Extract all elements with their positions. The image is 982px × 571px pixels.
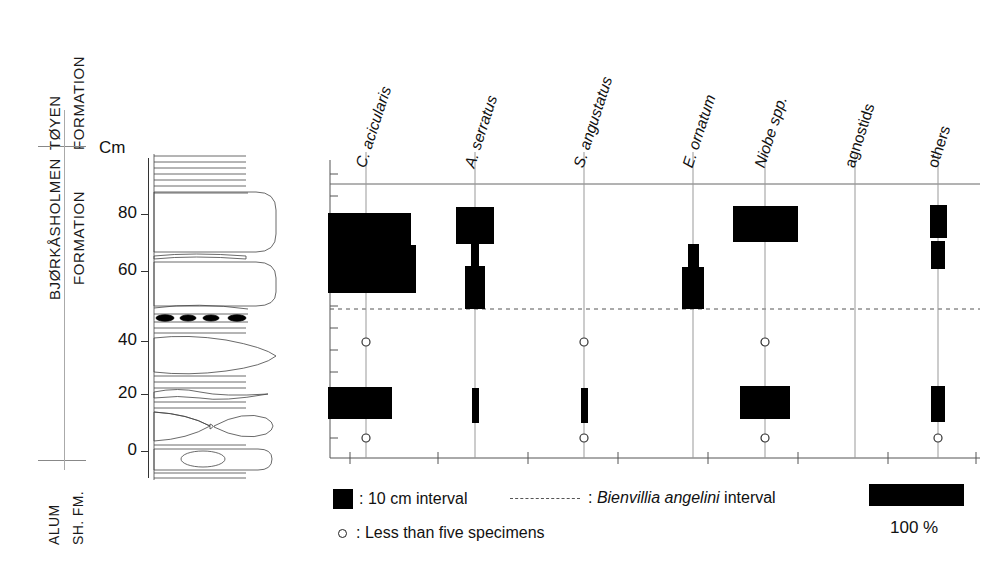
- rare-occurrence-marker: [761, 338, 769, 346]
- rare-occurrence-marker: [580, 338, 588, 346]
- rare-occurrence-marker: [761, 434, 769, 442]
- depth-tick-label-60: 60: [103, 260, 137, 280]
- facies-laminated-shale-2: [154, 328, 246, 333]
- scale-bar-label: 100 %: [890, 518, 938, 538]
- facies-limestone-nodule-4b: [214, 415, 273, 436]
- formation-toyen-line1: TØYEN: [46, 95, 63, 150]
- facies-limestone-lens: [154, 390, 268, 400]
- rare-occurrence-marker: [362, 434, 370, 442]
- depth-tick-label-80: 80: [103, 203, 137, 223]
- bars-e-ornatum: [682, 244, 704, 309]
- facies-laminated-shale-top: [154, 156, 246, 186]
- legend-bienvillia-taxon: Bienvillia angelini: [597, 489, 720, 506]
- bar-segment: [328, 387, 392, 419]
- legend-row-interval: : 10 cm interval: [333, 489, 467, 509]
- chart-bottom-axis: [330, 452, 980, 464]
- figure-root: TØYEN FORMATION BJØRKÅSHOLMEN FORMATION …: [0, 0, 982, 571]
- legend-interval-label: : 10 cm interval: [359, 490, 467, 508]
- formation-bjorkasholmen-line2: FORMATION: [70, 191, 87, 285]
- depth-tick-label-20: 20: [103, 383, 137, 403]
- formation-divider-bottom: [38, 460, 86, 461]
- bar-segment: [465, 266, 485, 309]
- facies-laminated-shale-3: [154, 376, 246, 388]
- bar-segment: [581, 388, 588, 423]
- bar-segment: [682, 267, 704, 309]
- formation-column-separator: [64, 110, 65, 470]
- bar-segment: [733, 206, 798, 242]
- bar-segment: [471, 244, 479, 266]
- bar-segment: [472, 388, 479, 423]
- taxon-range-lines: [366, 152, 938, 458]
- facies-laminated-shale-4: [154, 402, 246, 408]
- rare-occurrence-marker: [934, 434, 942, 442]
- formation-bjorkasholmen-line1: BJØRKÅSHOLMEN: [46, 158, 63, 300]
- facies-dark-nodule-band: [154, 314, 248, 322]
- formation-divider-top: [38, 146, 86, 147]
- legend-bienvillia-suffix: interval: [720, 489, 776, 506]
- facies-limestone-bed-upper: [154, 192, 276, 252]
- scale-bar-100-percent: [869, 484, 964, 506]
- legend-specimens-label: : Less than five specimens: [356, 524, 545, 542]
- lithology-column: [148, 152, 298, 482]
- bar-segment: [931, 386, 945, 422]
- facies-limestone-nodule-4a: [154, 412, 210, 441]
- facies-laminated-shale-basal: [154, 473, 246, 478]
- rare-occurrence-marker: [580, 434, 588, 442]
- bars-s-angustatus: [581, 388, 588, 423]
- rare-occurrence-marker: [362, 338, 370, 346]
- bars-c-acicularis: [328, 213, 416, 419]
- bar-segment: [931, 241, 945, 269]
- legend-row-bienvillia: : Bienvillia angelini interval: [510, 489, 776, 507]
- depth-tick-label-0: 0: [103, 440, 137, 460]
- depth-tick-label-40: 40: [103, 330, 137, 350]
- bar-segment: [328, 213, 411, 245]
- formation-toyen-line2: FORMATION: [70, 56, 87, 150]
- legend-row-specimens: : Less than five specimens: [338, 524, 545, 542]
- formation-alum-line2: SH. FM.: [70, 491, 86, 545]
- facies-limestone-bed-mid: [154, 262, 276, 306]
- bienvillia-dash-icon: [510, 498, 580, 499]
- facies-shale-parting-1: [154, 254, 246, 259]
- facies-internal-nodule: [181, 451, 225, 467]
- bar-segment: [930, 205, 947, 238]
- depth-scale-unit-label: Cm: [99, 138, 125, 158]
- range-chart: [328, 150, 982, 470]
- legend-bienvillia-prefix: :: [588, 489, 597, 506]
- bar-segment: [328, 245, 416, 293]
- bar-segment: [456, 207, 494, 244]
- rare-occurrence-icon: [338, 529, 347, 538]
- bar-segment: [740, 386, 790, 419]
- interval-swatch-icon: [333, 489, 353, 509]
- facies-limestone-nodule-3: [154, 336, 276, 373]
- formation-alum-line1: ALUM: [46, 505, 62, 546]
- rare-markers-others: [934, 434, 942, 442]
